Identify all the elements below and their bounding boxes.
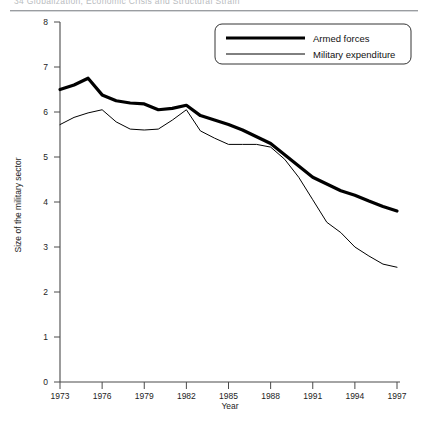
y-tick-label: 0 — [43, 377, 48, 387]
chart-legend: Armed forces Military expenditure — [215, 24, 411, 64]
x-tick-label: 1994 — [345, 391, 364, 401]
y-axis-ticks — [54, 22, 60, 382]
x-tick-label: 1997 — [388, 391, 407, 401]
legend-label-military-expenditure: Military expenditure — [313, 49, 395, 60]
y-tick-label: 6 — [43, 107, 48, 117]
x-axis-tick-labels: 197319761979198219851988199119941997 — [51, 391, 407, 401]
chart-page: 34 Globalization, Economic Crisis and St… — [0, 0, 428, 432]
y-tick-label: 8 — [43, 17, 48, 27]
chart-series-layer — [60, 78, 397, 267]
x-tick-label: 1991 — [303, 391, 322, 401]
y-tick-label: 2 — [43, 287, 48, 297]
line-chart: 012345678 197319761979198219851988199119… — [0, 0, 428, 432]
y-tick-label: 7 — [43, 62, 48, 72]
x-tick-label: 1982 — [177, 391, 196, 401]
y-axis-title: Size of the military sector — [13, 157, 23, 252]
series-line-military-expenditure — [60, 110, 397, 268]
x-tick-label: 1979 — [135, 391, 154, 401]
x-axis-title: Year — [221, 401, 238, 411]
x-tick-label: 1988 — [261, 391, 280, 401]
legend-label-armed-forces: Armed forces — [313, 33, 370, 44]
chart-canvas: 012345678 197319761979198219851988199119… — [0, 0, 428, 432]
x-tick-label: 1973 — [51, 391, 70, 401]
y-tick-label: 1 — [43, 332, 48, 342]
y-tick-label: 3 — [43, 242, 48, 252]
y-axis-tick-labels: 012345678 — [43, 17, 48, 387]
chart-axes — [60, 22, 400, 382]
y-tick-label: 4 — [43, 197, 48, 207]
x-tick-label: 1985 — [219, 391, 238, 401]
x-axis-ticks — [60, 382, 397, 389]
y-tick-label: 5 — [43, 152, 48, 162]
x-tick-label: 1976 — [93, 391, 112, 401]
